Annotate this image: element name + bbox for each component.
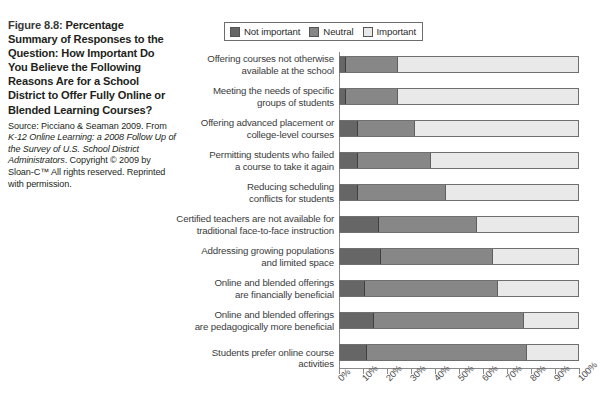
bar-segment-neutral	[364, 281, 497, 296]
bar-segment-not-important	[340, 121, 357, 136]
stacked-bar	[339, 56, 579, 73]
figure-page: Figure 8.8: Percentage Summary of Respon…	[0, 0, 610, 414]
bar-row	[339, 312, 584, 329]
category-label-line: groups of students	[176, 97, 334, 108]
stacked-bar-chart: Offering courses not otherwiseavailable …	[176, 52, 604, 368]
stacked-bar	[339, 120, 579, 137]
bar-segment-important	[397, 89, 578, 104]
bar-row	[339, 248, 584, 265]
bar-segment-important	[497, 281, 578, 296]
bar-row	[339, 344, 584, 361]
bar-row	[339, 120, 584, 137]
bar-segment-not-important	[340, 217, 378, 232]
category-label-line: are pedagogically more beneficial	[176, 321, 334, 332]
bar-row	[339, 184, 584, 201]
stacked-bar	[339, 248, 579, 265]
category-label-line: Reducing scheduling	[176, 181, 334, 192]
category-label-line: a course to take it again	[176, 161, 334, 172]
bar-segment-important	[476, 217, 578, 232]
category-label-line: are financially beneficial	[176, 289, 334, 300]
bar-row	[339, 88, 584, 105]
category-label-line: Online and blended offerings	[176, 309, 334, 320]
bar-segment-neutral	[345, 89, 397, 104]
stacked-bar	[339, 184, 579, 201]
category-label-line: traditional face-to-face instruction	[176, 225, 334, 236]
category-label-line: Meeting the needs of specific	[176, 85, 334, 96]
legend-item-important: Important	[363, 26, 417, 37]
bar-segment-not-important	[340, 281, 364, 296]
category-label: Offering courses not otherwiseavailable …	[176, 53, 334, 76]
figure-number: Figure 8.8:	[8, 19, 62, 31]
stacked-bar	[339, 88, 579, 105]
category-label-line: Addressing growing populations	[176, 245, 334, 256]
stacked-bar	[339, 312, 579, 329]
category-label-line: Offering courses not otherwise	[176, 53, 334, 64]
bar-segment-neutral	[357, 153, 431, 168]
category-label-line: available at the school	[176, 65, 334, 76]
category-label: Students prefer online course activities	[176, 347, 334, 370]
bar-row	[339, 216, 584, 233]
category-label-line: Certified teachers are not available for	[176, 213, 334, 224]
legend-item-neutral: Neutral	[309, 26, 353, 37]
bars-plot-area	[339, 52, 584, 368]
bar-segment-neutral	[357, 185, 445, 200]
category-label-line: and limited space	[176, 257, 334, 268]
legend-label-important: Important	[377, 26, 417, 37]
bar-segment-not-important	[340, 185, 357, 200]
chart-region: Not important Neutral Important Offering…	[176, 10, 604, 408]
legend-swatch-important-icon	[363, 27, 373, 37]
bar-row	[339, 152, 584, 169]
stacked-bar	[339, 152, 579, 169]
stacked-bar	[339, 216, 579, 233]
stacked-bar	[339, 280, 579, 297]
figure-caption: Figure 8.8: Percentage Summary of Respon…	[8, 18, 176, 190]
bar-segment-neutral	[380, 249, 492, 264]
category-label-line: Offering advanced placement or	[176, 117, 334, 128]
category-label: Permitting students who faileda course t…	[176, 149, 334, 172]
bar-segment-not-important	[340, 249, 380, 264]
bar-segment-not-important	[340, 313, 373, 328]
legend-swatch-neutral-icon	[309, 27, 319, 37]
bar-segment-neutral	[366, 345, 525, 360]
bar-segment-important	[430, 153, 578, 168]
category-label-line: conflicts for students	[176, 193, 334, 204]
bar-segment-important	[445, 185, 578, 200]
category-label-line: Online and blended offerings	[176, 277, 334, 288]
bar-row	[339, 56, 584, 73]
bar-segment-not-important	[340, 153, 357, 168]
bar-segment-neutral	[373, 313, 523, 328]
legend-label-neutral: Neutral	[323, 26, 353, 37]
category-label: Online and blended offeringsare pedagogi…	[176, 309, 334, 332]
bar-segment-neutral	[378, 217, 476, 232]
legend-item-not-important: Not important	[230, 26, 300, 37]
bar-segment-neutral	[357, 121, 414, 136]
category-label: Meeting the needs of specificgroups of s…	[176, 85, 334, 108]
bar-segment-neutral	[345, 57, 397, 72]
category-label: Online and blended offeringsare financia…	[176, 277, 334, 300]
bar-segment-important	[523, 313, 578, 328]
category-label: Offering advanced placement orcollege-le…	[176, 117, 334, 140]
legend-label-not-important: Not important	[244, 26, 300, 37]
category-label: Reducing schedulingconflicts for student…	[176, 181, 334, 204]
category-axis-labels: Offering courses not otherwiseavailable …	[176, 52, 338, 368]
bar-segment-important	[492, 249, 578, 264]
category-label: Certified teachers are not available for…	[176, 213, 334, 236]
bar-segment-important	[526, 345, 578, 360]
stacked-bar	[339, 344, 579, 361]
figure-source: Source: Picciano & Seaman 2009. From K-1…	[8, 121, 176, 191]
category-label-line: Students prefer online course activities	[176, 347, 334, 370]
x-axis-tick-labels: 0%10%20%30%40%50%60%70%80%90%100%	[339, 376, 599, 414]
bar-segment-important	[397, 57, 578, 72]
bar-segment-important	[414, 121, 578, 136]
figure-headline: Figure 8.8: Percentage Summary of Respon…	[8, 18, 176, 117]
legend-swatch-not-important-icon	[230, 27, 240, 37]
bar-segment-not-important	[340, 345, 366, 360]
bar-row	[339, 280, 584, 297]
category-label-line: Permitting students who failed	[176, 149, 334, 160]
source-prefix: Source: Picciano & Seaman 2009. From	[8, 121, 167, 131]
category-label-line: college-level courses	[176, 129, 334, 140]
chart-legend: Not important Neutral Important	[224, 22, 423, 41]
figure-title: Percentage Summary of Responses to the Q…	[8, 19, 165, 116]
category-label: Addressing growing populationsand limite…	[176, 245, 334, 268]
